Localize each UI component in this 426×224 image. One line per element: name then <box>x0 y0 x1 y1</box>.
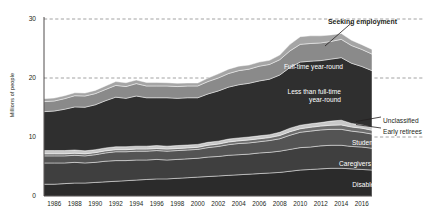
label-unclassified: Unclassified <box>383 117 419 124</box>
label-less-than-full-time: Less than full-time year-round <box>221 88 341 104</box>
label-students: Students <box>258 139 378 147</box>
chart-canvas <box>0 0 426 224</box>
x-tick-2016: 2016 <box>349 200 375 207</box>
label-seeking-employment: Seeking employment <box>328 18 397 25</box>
y-tick-30: 30 <box>18 15 36 22</box>
label-early-retirees: Early retirees <box>383 128 422 135</box>
y-tick-10: 10 <box>18 133 36 140</box>
label-full-time-year-round: Full-time year-round <box>223 63 343 71</box>
label-caregivers: Caregivers <box>251 160 371 168</box>
y-tick-0: 0 <box>18 192 36 199</box>
label-disabled: Disabled <box>258 181 378 189</box>
area-chart: Millions of people 0102030 1986198819901… <box>0 0 426 224</box>
y-tick-20: 20 <box>18 74 36 81</box>
y-axis-label: Millions of people <box>9 55 15 135</box>
